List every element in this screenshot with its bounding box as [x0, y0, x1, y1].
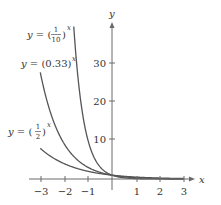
x-tick-label: −1 — [81, 186, 96, 197]
svg-text:y = (0.33): y = (0.33) — [20, 58, 72, 69]
svg-text:1: 1 — [54, 26, 58, 34]
y-axis-label: y — [108, 8, 115, 19]
label-one-tenth: y = ( 1 10 ) x — [26, 24, 71, 44]
svg-text:2: 2 — [36, 133, 40, 141]
svg-text:x: x — [67, 24, 71, 32]
svg-text:y = (: y = ( — [26, 29, 51, 40]
y-tick-label: 20 — [93, 96, 106, 107]
svg-text:y = (: y = ( — [7, 126, 32, 137]
svg-text:): ) — [42, 126, 46, 137]
x-tick-label: −3 — [34, 186, 49, 197]
y-tick-labels: 30 20 10 — [93, 58, 106, 145]
y-axis-arrow-icon — [110, 22, 115, 28]
svg-text:1: 1 — [36, 123, 40, 131]
x-axis-label: x — [199, 174, 205, 185]
curve-one-tenth — [74, 27, 184, 179]
label-one-half: y = ( 1 2 ) x — [7, 121, 51, 141]
y-tick-label: 30 — [93, 58, 106, 69]
y-tick-label: 10 — [93, 134, 106, 145]
label-0-33: y = (0.33) x — [20, 55, 76, 69]
x-tick-label: −2 — [58, 186, 73, 197]
svg-text:): ) — [62, 29, 66, 40]
svg-text:x: x — [47, 121, 51, 129]
svg-text:10: 10 — [52, 36, 61, 44]
svg-text:x: x — [72, 55, 76, 63]
x-axis-arrow-icon — [189, 177, 195, 182]
x-tick-labels: −3 −2 −1 1 2 3 — [34, 186, 188, 197]
exponential-chart: x y −3 −2 −1 1 2 3 30 20 10 y = ( 1 10 )… — [0, 0, 221, 205]
x-tick-label: 3 — [181, 186, 187, 197]
x-tick-label: 1 — [134, 186, 140, 197]
x-tick-label: 2 — [157, 186, 163, 197]
